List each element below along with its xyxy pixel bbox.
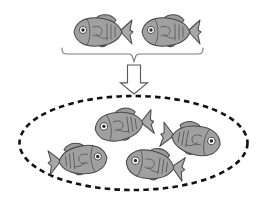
parent-fish-group — [74, 15, 201, 47]
grouping-brace — [62, 48, 203, 62]
parent-fish-right — [142, 15, 201, 47]
fish-reproduction-diagram — [0, 0, 265, 206]
parent-fish-left — [74, 15, 133, 47]
produces-arrow — [121, 65, 148, 94]
offspring-fish-bottom-center — [124, 144, 187, 184]
offspring-fish-bottom-left — [47, 141, 109, 178]
offspring-fish-group — [47, 104, 224, 184]
diagram-canvas — [0, 0, 265, 206]
offspring-fish-top — [93, 104, 156, 144]
